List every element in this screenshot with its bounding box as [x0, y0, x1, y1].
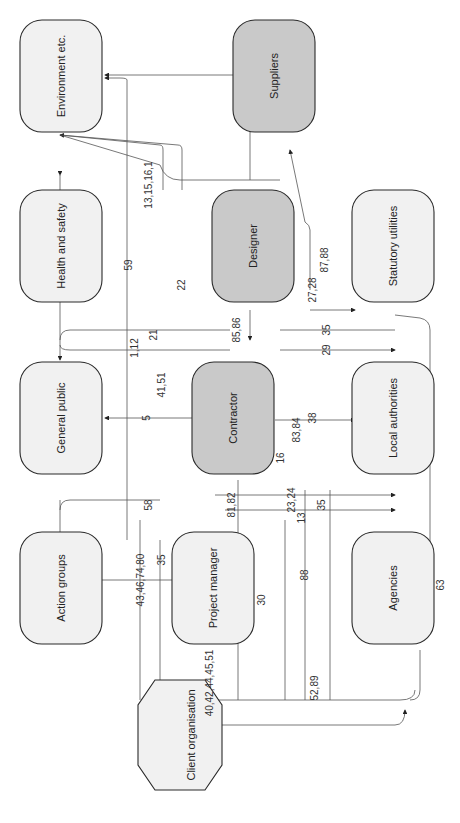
figure-caption-fragment [440, 610, 450, 810]
edge-label: 1,12 [129, 338, 140, 358]
node-label: Statutory utilities [387, 205, 399, 286]
edge-label: 30 [256, 594, 267, 606]
edge-label: 35 [156, 554, 167, 566]
node-agencies: Agencies [352, 532, 434, 644]
edge-label: 13,15,16,1 [143, 161, 154, 209]
node-label: Suppliers [268, 53, 280, 99]
node-label: Agencies [387, 565, 399, 611]
edge-label: 22 [176, 279, 187, 291]
edge-label: 13 [296, 512, 307, 524]
edge-label: 87,88 [319, 247, 330, 272]
node-project-manager: Project manager [172, 532, 254, 644]
edge-label: 5 [141, 415, 152, 421]
node-local-authorities: Local authorities [352, 362, 434, 474]
edge-label: 43,46,74,80 [135, 553, 146, 606]
edge-label: 63 [435, 579, 446, 591]
stakeholder-diagram: Environment etc. Suppliers Health and sa… [0, 0, 460, 823]
node-contractor: Contractor [192, 362, 274, 474]
node-label: General public [55, 382, 67, 453]
edge-label: 27,28 [307, 277, 318, 302]
node-label: Local authorities [387, 377, 399, 458]
node-label: Action groups [55, 554, 67, 622]
edge-label: 29 [321, 344, 332, 356]
node-suppliers: Suppliers [233, 20, 315, 132]
edge-label: 16 [275, 452, 286, 464]
edge-label: 83,84 [291, 417, 302, 442]
node-environment: Environment etc. [20, 20, 102, 132]
edge-label: 21 [148, 329, 159, 341]
edge-label: 38 [307, 412, 318, 424]
edge-label: 40,42,44,45,51 [204, 649, 215, 716]
edge-label: 52,89 [309, 675, 320, 700]
node-label: Project manager [207, 547, 219, 628]
edge-label: 23,24 [286, 487, 297, 512]
edge-label: 59 [123, 259, 134, 271]
node-label: Environment etc. [55, 35, 67, 118]
edge-label: 35 [316, 499, 327, 511]
edge-label: 81,82 [226, 492, 237, 517]
node-statutory-utilities: Statutory utilities [352, 190, 434, 302]
node-designer: Designer [212, 190, 294, 302]
edge-label: 85,86 [231, 317, 242, 342]
node-general-public: General public [20, 362, 102, 474]
node-label: Client organisation [185, 689, 197, 780]
edge-label: 88 [299, 569, 310, 581]
node-action-groups: Action groups [20, 532, 102, 644]
node-health-safety: Health and safety [20, 190, 102, 302]
node-label: Designer [247, 224, 259, 268]
edge-label: 41,51 [156, 372, 167, 397]
edge-label: 58 [143, 499, 154, 511]
node-label: Health and safety [55, 203, 67, 289]
node-label: Contractor [227, 392, 239, 444]
edge-label: 35 [321, 324, 332, 336]
